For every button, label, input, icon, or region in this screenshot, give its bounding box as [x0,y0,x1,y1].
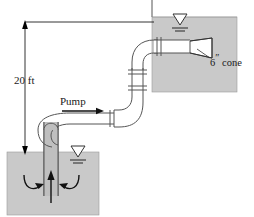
dimension-label-20ft: 20 ft [14,75,34,86]
pump-label: Pump [60,96,86,107]
vertical-riser [128,68,147,92]
cone-label-text: cone [222,57,242,68]
upper-horizontal-pipe [154,37,190,56]
cone-label: 6″ cone [210,53,242,68]
lower-elbow [114,92,143,127]
cone-label-inch-mark: ″ [215,52,219,63]
discharge-pipe [92,110,114,127]
pump-system-diagram: 20 ft Pump 6″ cone [0,0,254,217]
diagram-canvas [0,0,254,217]
dimension-arrow-up [22,20,28,29]
